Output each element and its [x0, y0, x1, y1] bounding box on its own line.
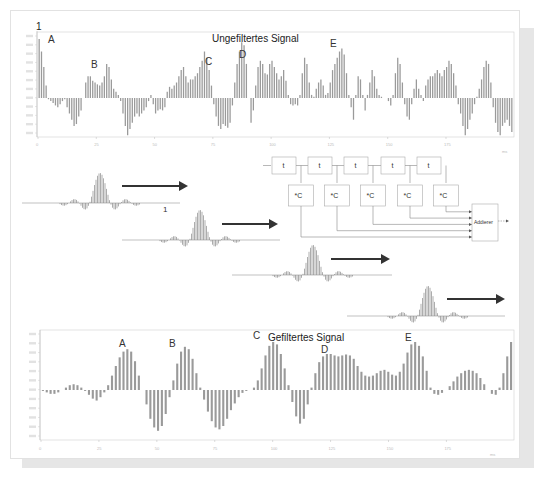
y-tick-label	[29, 407, 36, 409]
peak-label-d: D	[321, 344, 328, 355]
peak-label-e: E	[330, 38, 337, 49]
bottom-y-ticks	[29, 333, 40, 437]
arrow-right-icon	[496, 294, 505, 304]
fir-filter-diagram: 0255075100125150175 1 Ungefiltertes Sign…	[0, 0, 542, 481]
y-tick-label	[26, 44, 33, 46]
coefficient-label: *C	[404, 192, 412, 199]
x-tick-label: 75	[213, 446, 218, 451]
delay-label: t	[283, 162, 285, 169]
pulse-wavelet-2	[122, 210, 280, 246]
sum-arrowhead	[469, 229, 472, 232]
bottom-x-unit: ms	[490, 452, 495, 457]
top-bars	[39, 39, 512, 135]
coefficient-label: *C	[295, 192, 303, 199]
bottom-chart-title: Gefiltertes Signal	[268, 332, 344, 343]
x-tick-label: 0	[39, 446, 42, 451]
moving-pulses	[22, 173, 505, 322]
x-tick-label: 175	[444, 142, 451, 147]
output-arrowhead	[506, 220, 509, 223]
y-tick-label	[29, 361, 36, 363]
y-tick-label	[26, 88, 33, 90]
peak-label-b: B	[169, 338, 176, 349]
y-tick-label	[26, 79, 33, 81]
sum-arrowhead	[469, 236, 472, 239]
fir-block-diagram: t*Ct*Ct*Ct*Ct*CAddierer	[263, 157, 509, 241]
delay-label: t	[392, 162, 394, 169]
coefficient-label: *C	[440, 192, 448, 199]
y-tick-label	[29, 342, 36, 344]
y-tick-label	[29, 435, 36, 437]
peak-label-a: A	[119, 338, 126, 349]
sum-arrowhead	[469, 210, 472, 213]
y-tick-label	[29, 379, 36, 381]
sum-arrowhead	[469, 217, 472, 220]
delay-label: t	[355, 162, 357, 169]
y-tick-label	[26, 132, 33, 134]
x-tick-label: 25	[97, 446, 102, 451]
bottom-bars	[43, 342, 511, 431]
top-x-unit: ms	[502, 149, 507, 154]
y-tick-label	[26, 105, 33, 107]
peak-label-d: D	[239, 49, 246, 60]
y-tick-label	[29, 333, 36, 335]
x-tick-label: 50	[155, 446, 160, 451]
peak-label-e: E	[405, 332, 412, 343]
x-tick-label: 125	[329, 446, 336, 451]
unfiltered-signal-chart: 0255075100125150175 1 Ungefiltertes Sign…	[26, 21, 514, 154]
y-tick-label	[26, 52, 33, 54]
x-tick-label: 75	[211, 142, 216, 147]
peak-label-c: C	[253, 330, 260, 341]
delay-label: t	[319, 162, 321, 169]
x-tick-label: 100	[269, 142, 276, 147]
bottom-annotations: ABCDE	[119, 330, 412, 355]
y-tick-label	[29, 416, 36, 418]
y-tick-label	[26, 61, 33, 63]
x-tick-label: 125	[327, 142, 334, 147]
arrow-right-icon	[381, 254, 390, 264]
delay-label: t	[428, 162, 430, 169]
sum-line	[373, 206, 472, 224]
x-tick-label: 175	[444, 446, 451, 451]
y-tick-label	[29, 426, 36, 428]
top-marker-label: 1	[36, 21, 42, 32]
y-tick-label	[29, 370, 36, 372]
x-tick-label: 0	[36, 142, 39, 147]
pulse-wavelet-4	[347, 286, 505, 322]
x-tick-label: 150	[386, 142, 393, 147]
y-tick-label	[26, 70, 33, 72]
peak-label-a: A	[48, 34, 55, 45]
coefficient-label: *C	[331, 192, 339, 199]
adder-label: Addierer	[474, 219, 493, 225]
y-tick-label	[29, 388, 36, 390]
y-tick-label	[26, 123, 33, 125]
y-tick-label	[26, 97, 33, 99]
peak-label-b: B	[91, 59, 98, 70]
x-tick-label: 100	[271, 446, 278, 451]
pulse-first-label: 1	[163, 205, 168, 214]
arrow-right-icon	[269, 219, 278, 229]
y-tick-label	[29, 351, 36, 353]
filtered-signal-chart: 0255075100125150175 Gefiltertes Signal A…	[29, 330, 514, 457]
pulse-wavelet-3	[232, 245, 392, 281]
x-tick-label: 150	[386, 446, 393, 451]
top-x-ticks: 0255075100125150175	[36, 137, 451, 147]
y-tick-label	[29, 398, 36, 400]
y-tick-label	[26, 114, 33, 116]
coefficient-label: *C	[367, 192, 375, 199]
sum-arrowhead	[469, 223, 472, 226]
top-chart-title: Ungefiltertes Signal	[212, 33, 299, 44]
y-tick-label	[26, 35, 33, 37]
top-y-ticks	[26, 35, 37, 134]
arrow-right-icon	[179, 181, 188, 191]
x-tick-label: 25	[94, 142, 99, 147]
sum-line	[301, 206, 472, 237]
sum-line	[446, 206, 472, 212]
bottom-x-ticks: 0255075100125150175	[39, 440, 452, 451]
peak-label-c: C	[205, 56, 212, 67]
x-tick-label: 50	[153, 142, 158, 147]
